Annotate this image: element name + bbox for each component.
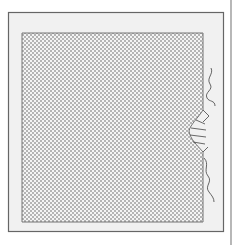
stippled-panel (22, 33, 203, 222)
diagram-canvas (0, 0, 234, 245)
